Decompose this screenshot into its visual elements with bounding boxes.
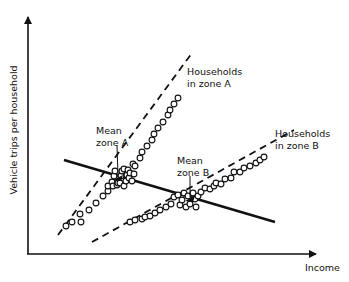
zone-a-household-point [151,131,157,137]
zone-b-household-point [247,163,253,169]
zone-a-household-point [167,107,173,113]
households-b-label-line1: Households [275,128,330,139]
zone-b-household-point [157,207,163,213]
zone-a-household-point [137,155,143,161]
households-a-label-line1: Households [187,66,242,77]
zone-b-household-point [179,197,185,203]
zone-a-household-point [171,101,177,107]
zone-a-household-point [155,125,161,131]
zone-a-household-point [149,137,155,143]
zone-a-household-point [144,143,150,149]
households-b-label-line2: in zone B [275,140,319,151]
zone-b-household-point [175,192,181,198]
zone-a-household-point [69,219,75,225]
zone-b-household-point [218,181,224,187]
zone-b-household-point [228,175,234,181]
zone-a-household-point [112,168,118,174]
mean-b-label-line2: zone B [177,167,209,178]
zone-a-household-point [139,149,145,155]
zone-a-household-point [131,171,137,177]
mean-a-label-line1: Mean [96,125,122,136]
mean-b-label-line1: Mean [177,155,203,166]
x-axis-label: Income [305,262,340,273]
diagram-canvas: Vehicle trips per household Income Mean … [0,0,349,282]
zone-a-household-point [132,163,138,169]
zone-b-household-point [132,217,138,223]
zone-b-household-point [193,204,199,210]
data-points [63,95,267,229]
zone-a-household-point [129,178,135,184]
zone-b-household-point [187,201,193,207]
zone-b-household-point [231,169,237,175]
zone-a-household-point [77,211,83,217]
zone-a-household-point [78,219,84,225]
diagram-svg: Vehicle trips per household Income Mean … [0,0,349,282]
zone-b-household-point [241,165,247,171]
mean-a-label-line2: zone A [96,137,129,148]
zone-b-household-point [261,154,267,160]
y-axis-label: Vehicle trips per household [8,65,19,194]
zone-a-household-point [160,119,166,125]
zone-a-household-point [100,193,106,199]
series-lines [58,53,294,242]
zone-a-household-point [175,95,181,101]
zone-a-household-point [63,223,69,229]
zone-a-household-point [86,207,92,213]
zone-a-household-point [93,200,99,206]
households-a-label-line2: in zone A [187,78,231,89]
zone-b-household-point [222,176,228,182]
zone-b-household-point [168,201,174,207]
